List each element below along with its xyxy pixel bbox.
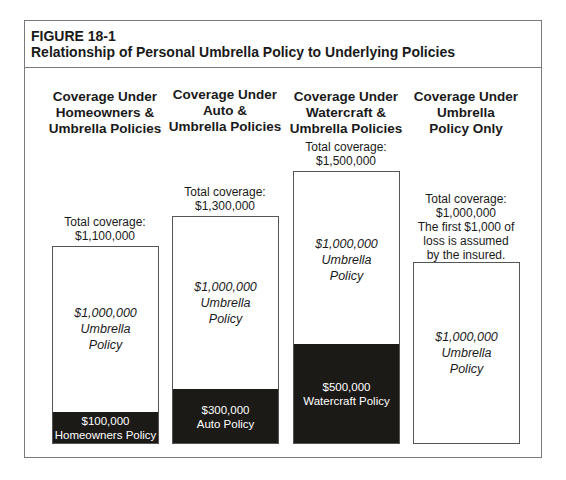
heading-line: Coverage Under [284, 89, 408, 105]
deductible-note: The first $1,000 of [404, 220, 528, 234]
total-coverage-homeowners: Total coverage: $1,100,000 [43, 215, 167, 243]
umbrella-text: Policy [173, 311, 278, 327]
umbrella-amount: $1,000,000 [53, 305, 158, 321]
umbrella-text: Umbrella [53, 321, 158, 337]
coverage-bar-watercraft: $1,000,000 Umbrella Policy $500,000 Wate… [293, 171, 400, 444]
underlying-amount: $300,000 [173, 403, 278, 417]
umbrella-segment-label: $1,000,000 Umbrella Policy [294, 236, 399, 284]
coverage-bar-homeowners: $1,000,000 Umbrella Policy $100,000 Home… [52, 246, 159, 444]
total-value: $1,000,000 [404, 206, 528, 220]
underlying-amount: $100,000 [53, 414, 158, 428]
figure-number: FIGURE 18-1 [31, 28, 116, 44]
underlying-policy-name: Homeowners Policy [53, 428, 158, 442]
umbrella-text: Umbrella [294, 252, 399, 268]
underlying-segment-homeowners: $100,000 Homeowners Policy [53, 412, 158, 443]
umbrella-segment-label: $1,000,000 Umbrella Policy [173, 279, 278, 327]
coverage-bar-auto: $1,000,000 Umbrella Policy $300,000 Auto… [172, 216, 279, 444]
total-label: Total coverage: [163, 185, 287, 199]
underlying-segment-auto: $300,000 Auto Policy [173, 389, 278, 443]
umbrella-text: Policy [294, 268, 399, 284]
umbrella-segment-label: $1,000,000 Umbrella Policy [414, 329, 519, 377]
heading-line: Umbrella [404, 105, 528, 121]
column-heading-watercraft: Coverage Under Watercraft & Umbrella Pol… [284, 89, 408, 137]
column-heading-auto: Coverage Under Auto & Umbrella Policies [163, 87, 287, 135]
umbrella-amount: $1,000,000 [294, 236, 399, 252]
column-heading-homeowners: Coverage Under Homeowners & Umbrella Pol… [43, 89, 167, 137]
heading-line: Coverage Under [43, 89, 167, 105]
total-value: $1,300,000 [163, 199, 287, 213]
figure-title: Relationship of Personal Umbrella Policy… [31, 44, 455, 60]
heading-line: Auto & [163, 103, 287, 119]
total-coverage-umbrella-only: Total coverage: $1,000,000 The first $1,… [404, 192, 528, 262]
total-coverage-watercraft: Total coverage: $1,500,000 [284, 140, 408, 168]
total-label: Total coverage: [284, 140, 408, 154]
umbrella-text: Policy [53, 337, 158, 353]
total-label: Total coverage: [404, 192, 528, 206]
underlying-segment-watercraft: $500,000 Watercraft Policy [294, 344, 399, 443]
umbrella-amount: $1,000,000 [173, 279, 278, 295]
total-coverage-auto: Total coverage: $1,300,000 [163, 185, 287, 213]
heading-line: Homeowners & [43, 105, 167, 121]
deductible-note: by the insured. [404, 248, 528, 262]
umbrella-amount: $1,000,000 [414, 329, 519, 345]
underlying-policy-name: Auto Policy [173, 417, 278, 431]
heading-line: Coverage Under [404, 89, 528, 105]
heading-line: Umbrella Policies [284, 121, 408, 137]
total-label: Total coverage: [43, 215, 167, 229]
umbrella-text: Umbrella [173, 295, 278, 311]
heading-line: Umbrella Policies [163, 119, 287, 135]
heading-line: Policy Only [404, 121, 528, 137]
heading-line: Umbrella Policies [43, 121, 167, 137]
total-value: $1,500,000 [284, 154, 408, 168]
underlying-policy-name: Watercraft Policy [294, 394, 399, 408]
coverage-bar-umbrella-only: $1,000,000 Umbrella Policy [413, 262, 520, 444]
deductible-note: loss is assumed [404, 234, 528, 248]
umbrella-segment-label: $1,000,000 Umbrella Policy [53, 305, 158, 353]
umbrella-text: Umbrella [414, 345, 519, 361]
heading-line: Coverage Under [163, 87, 287, 103]
heading-line: Watercraft & [284, 105, 408, 121]
figure-header: FIGURE 18-1 Relationship of Personal Umb… [25, 21, 541, 68]
total-value: $1,100,000 [43, 229, 167, 243]
underlying-amount: $500,000 [294, 380, 399, 394]
umbrella-text: Policy [414, 361, 519, 377]
column-heading-umbrella-only: Coverage Under Umbrella Policy Only [404, 89, 528, 137]
